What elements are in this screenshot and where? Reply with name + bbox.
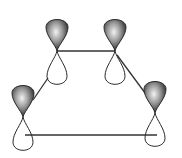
orbital-lobe-bottom-unshaded <box>47 51 67 84</box>
orbital-lobe-top-shaded <box>46 20 68 51</box>
orbital-lobe-top-shaded <box>144 82 166 113</box>
p-orbital-p2 <box>104 20 126 85</box>
orbital-lobe-top-shaded <box>12 86 34 117</box>
orbital-lobe-bottom-unshaded <box>13 117 33 150</box>
p-orbital-p3 <box>12 86 34 151</box>
orbital-diagram <box>0 0 182 158</box>
bond-line-p1-p3 <box>33 78 48 100</box>
orbital-lobe-top-shaded <box>104 20 126 51</box>
p-orbital-p4 <box>144 82 166 147</box>
p-orbital-p1 <box>46 20 68 85</box>
bond-line-p2-p4 <box>117 55 148 97</box>
orbital-lobe-bottom-unshaded <box>145 113 165 146</box>
orbital-lobe-bottom-unshaded <box>105 51 125 84</box>
